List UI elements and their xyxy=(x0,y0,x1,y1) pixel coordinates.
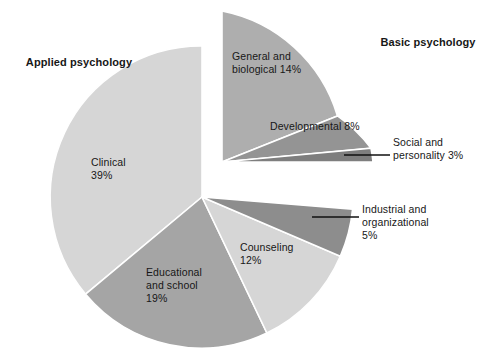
basic-psychology-slice-group xyxy=(222,11,373,162)
pie-chart-figure: Applied psychology Basic psychology Gene… xyxy=(0,0,484,362)
group-label-basic-psychology: Basic psychology xyxy=(378,36,478,50)
slice-label-industrial-organizational: Industrial and organizational 5% xyxy=(362,203,478,242)
slice-label-educational-school: Educational and school 19% xyxy=(146,266,246,305)
slice-label-social-personality: Social and personality 3% xyxy=(393,136,483,162)
slice-label-counseling: Counseling 12% xyxy=(240,241,330,267)
slice-label-general-biological: General and biological 14% xyxy=(232,50,362,76)
slice-label-developmental: Developmental 8% xyxy=(270,120,410,133)
slice-label-clinical: Clinical 39% xyxy=(91,156,181,182)
group-label-applied-psychology: Applied psychology xyxy=(24,56,134,70)
